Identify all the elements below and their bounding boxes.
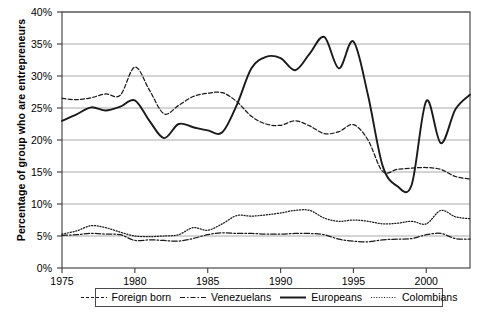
legend-item: Europeans [280,292,362,303]
legend-swatch-foreign-born [81,293,107,302]
y-tick-label: 25% [18,103,52,114]
series-line-colombians [62,210,470,237]
data-series-layer [62,37,470,242]
y-tick-label: 5% [18,231,52,242]
x-tick-label: 1990 [258,276,304,287]
y-tick-label: 0% [18,263,52,274]
y-tick-label: 10% [18,199,52,210]
y-tick-label: 40% [18,7,52,18]
chart-legend: Foreign born Venezuelans Europeans Colom… [95,288,443,307]
series-line-venezuelans [62,233,470,242]
legend-swatch-europeans [280,293,306,302]
legend-item: Colombians [371,292,457,303]
x-tick-label: 1975 [39,276,85,287]
chart-figure: Percentage of group who are entrepreneur… [0,0,489,316]
legend-item: Foreign born [81,292,172,303]
legend-label-colombians: Colombians [402,292,457,303]
y-tick-label: 15% [18,167,52,178]
legend-label-foreign-born: Foreign born [112,292,172,303]
x-tick-label: 1995 [330,276,376,287]
legend-label-venezuelans: Venezuelans [211,292,271,303]
y-tick-label: 30% [18,71,52,82]
x-tick-label: 1980 [112,276,158,287]
x-tick-label: 2000 [403,276,449,287]
plot-canvas [0,0,489,316]
y-tick-label: 20% [18,135,52,146]
series-line-foreign-born [62,67,470,179]
x-tick-label: 1985 [185,276,231,287]
legend-swatch-colombians [371,293,397,302]
legend-label-europeans: Europeans [311,292,362,303]
y-tick-label: 35% [18,39,52,50]
x-axis-ticks [62,268,426,273]
legend-item: Venezuelans [180,292,271,303]
y-axis-ticks [57,12,62,268]
legend-swatch-venezuelans [180,293,206,302]
